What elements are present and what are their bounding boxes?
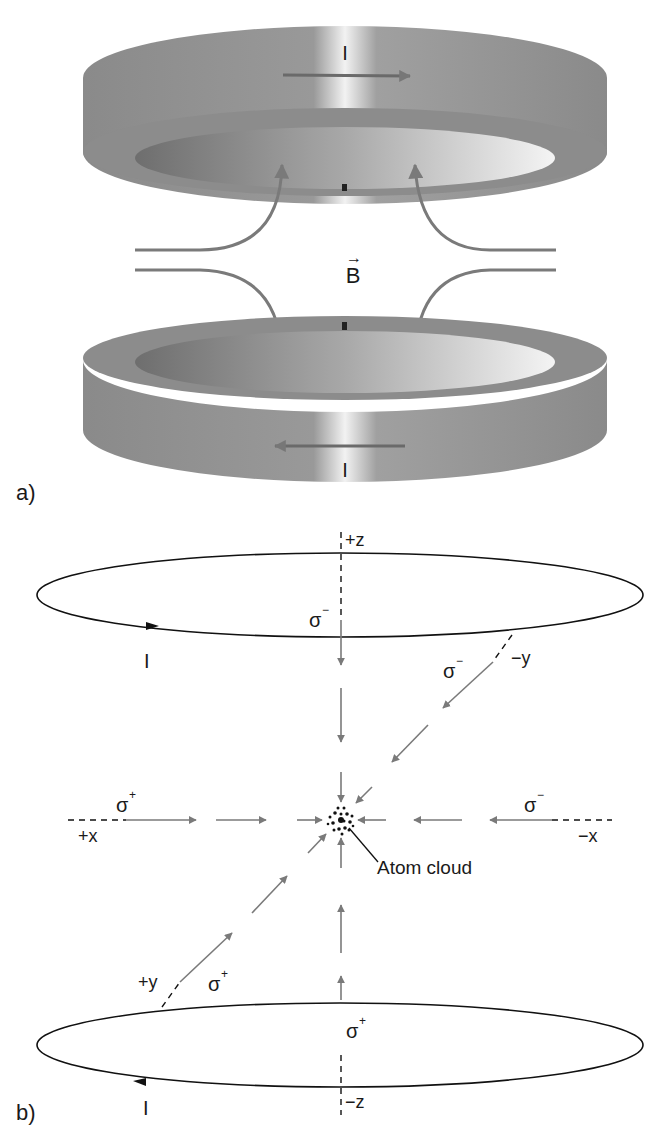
svg-text:σ: σ	[346, 1020, 359, 1042]
svg-text:−: −	[456, 654, 463, 668]
axis-minus-y: −y	[511, 648, 531, 668]
field-label: B	[346, 263, 361, 288]
panel-b-label: b)	[16, 1100, 36, 1125]
sigma-from-minus-x: σ −	[524, 788, 544, 816]
axis-minus-z: −z	[345, 1092, 365, 1112]
bottom-loop-current-arrow	[133, 1078, 146, 1086]
svg-text:+: +	[129, 788, 136, 802]
field-vector-arrow: →	[346, 249, 362, 266]
svg-text:σ: σ	[208, 973, 221, 995]
bottom-coil-current-label: I	[342, 459, 348, 481]
atom-cloud	[327, 807, 355, 836]
panel-a-helmholtz-coils: I B → I a)	[16, 26, 607, 505]
axis-plus-y: +y	[138, 972, 158, 992]
svg-text:σ: σ	[524, 794, 537, 816]
svg-text:−: −	[322, 603, 329, 617]
svg-text:−: −	[537, 788, 544, 802]
svg-text:σ: σ	[443, 660, 456, 682]
bottom-loop-current-label: I	[143, 1097, 149, 1119]
panel-a-label: a)	[16, 480, 36, 505]
axis-plus-x: +x	[78, 826, 98, 846]
svg-text:+: +	[221, 967, 228, 981]
top-loop-current-label: I	[144, 650, 150, 672]
axis-plus-z: +z	[345, 530, 365, 550]
atom-cloud-leader-line	[349, 828, 378, 862]
sigma-from-minus-z: σ +	[346, 1014, 366, 1042]
sigma-from-minus-y: σ −	[443, 654, 463, 682]
axis-minus-x: −x	[578, 826, 598, 846]
top-coil: I	[83, 26, 607, 204]
bottom-current-loop	[37, 1003, 643, 1087]
svg-text:σ: σ	[116, 794, 129, 816]
atom-cloud-label: Atom cloud	[377, 857, 472, 878]
svg-text:σ: σ	[309, 609, 322, 631]
top-coil-current-label: I	[342, 42, 348, 64]
panel-b-mot-beams: I I	[16, 530, 643, 1125]
sigma-from-plus-x: σ +	[116, 788, 136, 816]
axis-dashes	[68, 532, 612, 1115]
sigma-from-plus-y: σ +	[208, 967, 228, 995]
svg-text:+: +	[359, 1014, 366, 1028]
bottom-coil: I	[83, 316, 607, 482]
sigma-from-plus-z: σ −	[309, 603, 329, 631]
laser-beams	[126, 620, 552, 1000]
top-current-loop	[37, 553, 643, 637]
